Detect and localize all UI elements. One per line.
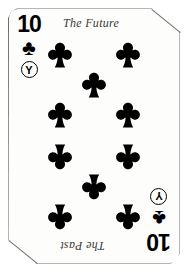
club-pip-upright xyxy=(79,71,109,101)
club-pip-upright xyxy=(113,41,143,71)
club-pip-upright xyxy=(113,101,143,131)
club-pip-inverted xyxy=(45,141,75,171)
club-pip-inverted xyxy=(113,141,143,171)
club-pip-inverted xyxy=(45,201,75,231)
club-pip-inverted xyxy=(79,171,109,201)
club-pip-inverted xyxy=(113,201,143,231)
pip-field xyxy=(8,8,180,264)
playing-card[interactable]: 10 ♣ Y 10 ♣ Y The Future The Past xyxy=(0,0,188,272)
club-pip-upright xyxy=(45,41,75,71)
club-pip-upright xyxy=(45,101,75,131)
